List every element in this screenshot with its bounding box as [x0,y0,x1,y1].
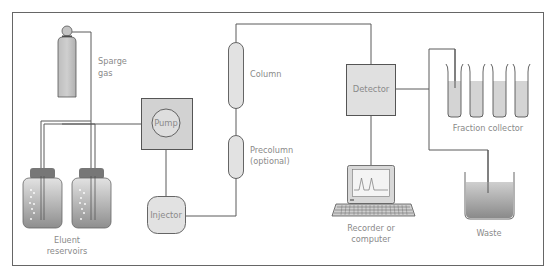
sparge-gas-label-2: gas [98,68,112,78]
waste-label: Waste [476,228,501,238]
column-label: Column [250,69,281,79]
column [229,43,244,109]
eluent-reservoirs-label-2: reservoirs [47,246,88,256]
hplc-diagram: Sparge gas Eluent reservoirs Pump Inject… [0,0,553,273]
detector-label: Detector [353,84,390,94]
fraction-collector-label: Fraction collector [453,123,524,133]
pump-label: Pump [154,118,178,128]
precolumn [229,136,244,179]
injector-label: Injector [150,210,182,220]
precolumn-label: Precolumn [250,145,293,155]
diagram-canvas: Sparge gas Eluent reservoirs Pump Inject… [0,0,553,273]
sparge-gas-label: Sparge [98,56,127,66]
recorder-label: Recorder or [347,223,395,233]
eluent-reservoirs-label: Eluent [54,235,81,245]
recorder-label-2: computer [351,234,391,244]
precolumn-label-2: (optional) [250,156,290,166]
